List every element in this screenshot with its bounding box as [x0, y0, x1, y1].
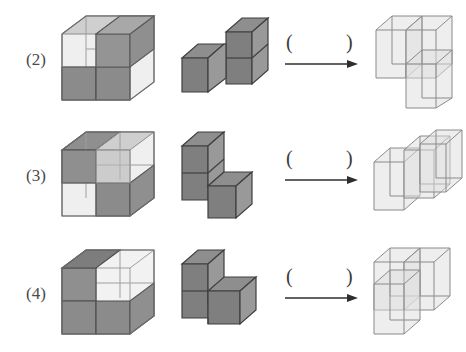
result-shape-figure [372, 240, 464, 340]
row-label-2: (2) [14, 50, 58, 70]
given-piece-figure [178, 128, 270, 222]
problem-row: (3) [0, 116, 466, 233]
given-piece-svg [178, 246, 274, 338]
given-piece-figure [178, 14, 270, 104]
open-paren: ( [286, 148, 293, 168]
target-cube-svg [58, 122, 158, 227]
problem-row: (4) [0, 232, 466, 349]
answer-blank-arrow[interactable]: ( ) [284, 266, 360, 306]
answer-blank-arrow[interactable]: ( ) [284, 32, 360, 72]
given-piece-svg [178, 128, 270, 222]
arrow-icon [284, 56, 360, 76]
close-paren: ) [346, 266, 353, 286]
row-label-3: (3) [14, 166, 58, 186]
arrow-icon [284, 290, 360, 310]
target-cube-figure [58, 240, 158, 345]
result-shape-figure [372, 128, 464, 224]
problem-sheet: (2) [0, 0, 466, 352]
target-cube-svg [58, 6, 158, 111]
result-shape-svg [374, 8, 460, 108]
row-label-4: (4) [14, 284, 58, 304]
arrow-icon [284, 172, 360, 192]
open-paren: ( [286, 32, 293, 52]
close-paren: ) [346, 148, 353, 168]
target-cube-figure [58, 6, 158, 111]
given-piece-svg [178, 14, 270, 104]
target-cube-svg [58, 240, 158, 345]
given-piece-figure [178, 246, 274, 338]
target-cube-figure [58, 122, 158, 227]
result-shape-svg [372, 240, 464, 340]
problem-row: (2) [0, 0, 466, 117]
close-paren: ) [346, 32, 353, 52]
result-shape-figure [374, 8, 460, 108]
result-shape-svg [372, 128, 464, 224]
open-paren: ( [286, 266, 293, 286]
answer-blank-arrow[interactable]: ( ) [284, 148, 360, 188]
